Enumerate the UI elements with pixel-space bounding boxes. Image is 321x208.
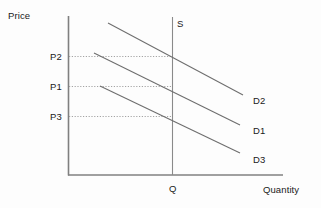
demand-curve-d2 bbox=[108, 23, 243, 95]
demand-curve-d3 bbox=[100, 86, 240, 153]
demand-curve-d1 bbox=[94, 53, 240, 125]
demand-curve-label-d1: D1 bbox=[253, 126, 265, 136]
demand-curve-label-d2: D2 bbox=[253, 96, 265, 106]
chart-canvas bbox=[0, 0, 321, 208]
demand-curve-label-d3: D3 bbox=[253, 155, 265, 165]
price-label-p1: P1 bbox=[50, 82, 62, 92]
price-label-p2: P2 bbox=[50, 52, 62, 62]
y-axis-label: Price bbox=[8, 11, 30, 21]
supply-demand-diagram: Price Quantity P2 P1 P3 S Q D2 D1 D3 bbox=[0, 0, 321, 208]
supply-curve-label: S bbox=[177, 19, 183, 29]
x-axis-label: Quantity bbox=[263, 185, 299, 195]
price-label-p3: P3 bbox=[50, 112, 62, 122]
quantity-tick-label: Q bbox=[169, 184, 177, 194]
